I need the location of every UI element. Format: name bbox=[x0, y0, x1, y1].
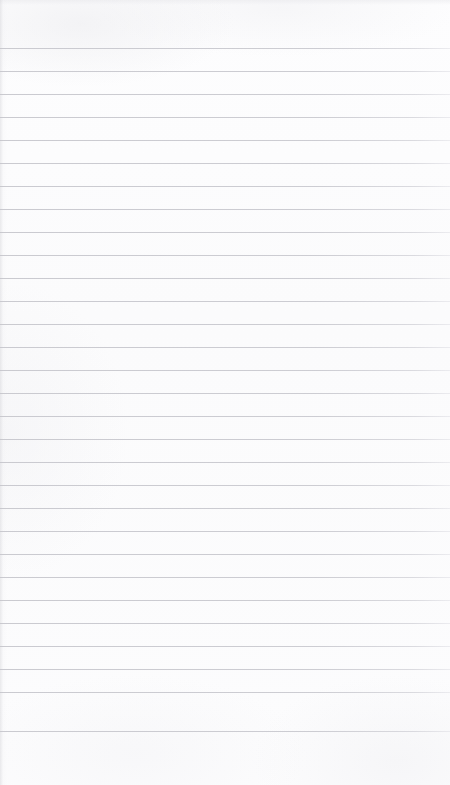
lined-paper-page bbox=[0, 0, 450, 785]
page-content-area[interactable] bbox=[0, 0, 450, 785]
